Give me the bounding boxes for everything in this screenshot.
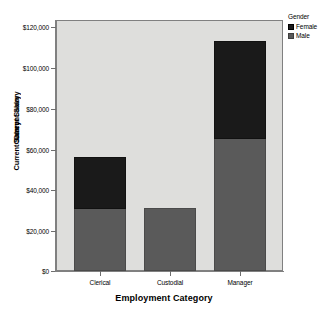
x-tick-label-custodial: Custodial bbox=[157, 279, 183, 287]
bar-manager-male bbox=[214, 138, 266, 271]
legend-title: Gender bbox=[288, 13, 328, 21]
x-tick-mark bbox=[100, 271, 101, 276]
legend-item-female[interactable]: Female bbox=[288, 23, 328, 31]
bar-manager-female bbox=[214, 41, 266, 139]
x-axis-title: Employment Category bbox=[0, 293, 328, 303]
bars-layer bbox=[0, 0, 328, 311]
legend: Gender Female Male bbox=[288, 13, 328, 41]
stacked-bar-chart: $120,000 $100,000 $80,000 $60,000 $40,00… bbox=[0, 0, 328, 311]
bar-clerical-male bbox=[74, 208, 126, 271]
legend-swatch-icon-female bbox=[288, 24, 294, 30]
legend-swatch-icon-male bbox=[288, 33, 294, 39]
x-tick-label-clerical: Clerical bbox=[90, 279, 111, 287]
legend-label-female: Female bbox=[296, 23, 317, 31]
bar-clerical-female bbox=[74, 157, 126, 209]
x-tick-mark bbox=[240, 271, 241, 276]
x-tick-mark bbox=[170, 271, 171, 276]
legend-item-male[interactable]: Male bbox=[288, 32, 328, 40]
bar-custodial-male bbox=[144, 208, 196, 271]
x-tick-label-manager: Manager bbox=[228, 279, 253, 287]
legend-label-male: Male bbox=[296, 32, 310, 40]
